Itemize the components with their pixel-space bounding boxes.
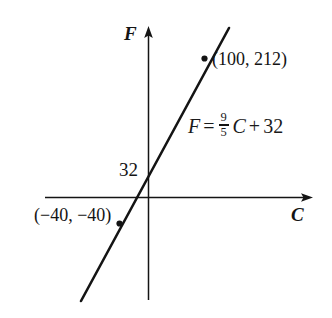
y-axis [144, 26, 153, 300]
fraction-numerator: 9 [219, 111, 227, 124]
data-point-100-212 [201, 55, 207, 61]
point-label-neg40-neg40: (−40, −40) [34, 206, 111, 224]
conversion-line [81, 28, 229, 301]
fraction-denominator: 5 [219, 126, 227, 139]
equation-constant: 32 [263, 116, 283, 136]
equation-plus-sign: + [249, 116, 260, 136]
y-axis-label: F [124, 24, 137, 43]
x-axis-label: C [291, 205, 304, 224]
plot-canvas [0, 0, 332, 318]
x-axis [45, 193, 313, 202]
equation-variable: C [233, 116, 246, 136]
equation-annotation: F = 9 5 C + 32 [188, 112, 283, 140]
data-point-neg40-neg40 [116, 220, 122, 226]
equation-lhs: F [188, 116, 200, 136]
equation-equals-sign: = [203, 116, 214, 136]
point-label-100-212: (100, 212) [212, 50, 287, 68]
y-intercept-label: 32 [119, 160, 138, 179]
temperature-conversion-figure: F C 32 (100, 212) (−40, −40) F = 9 5 C +… [0, 0, 332, 318]
equation-fraction: 9 5 [219, 111, 229, 139]
